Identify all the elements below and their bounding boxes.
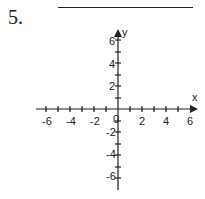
x-axis-arrow-icon	[190, 105, 198, 113]
x-tick-label: 6	[187, 115, 193, 127]
y-tick-label: 4	[109, 58, 115, 70]
y-axis-label: y	[122, 26, 128, 38]
y-axis-arrow-icon	[114, 29, 122, 37]
y-tick-label: -4	[106, 148, 116, 160]
y-tick-label: 2	[109, 80, 115, 92]
x-axis-label: x	[192, 91, 198, 103]
x-tick-label: -4	[66, 115, 76, 127]
x-tick-label: -6	[42, 115, 52, 127]
x-axis	[36, 106, 192, 112]
x-tick-label: -2	[90, 115, 100, 127]
y-tick-label: -2	[106, 126, 116, 138]
x-tick-label: 2	[139, 115, 145, 127]
y-tick-label: 6	[109, 35, 115, 47]
y-tick-label: -6	[106, 170, 116, 182]
x-tick-label: 0	[113, 113, 119, 125]
x-tick-label: 4	[163, 115, 169, 127]
coordinate-grid: x y -6 -4 -2 0 2 4 6 6 4 2 -2 -4 -6	[0, 0, 205, 199]
